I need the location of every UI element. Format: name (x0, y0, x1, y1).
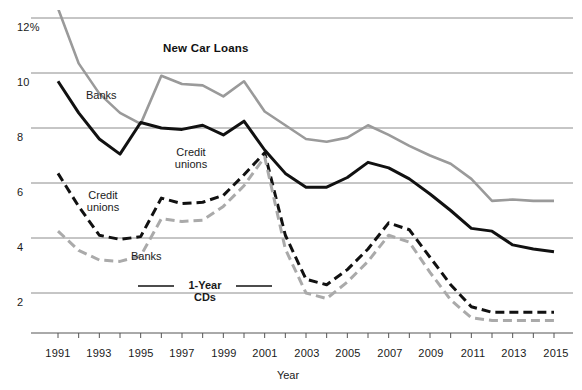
series-group (58, 8, 554, 320)
x-axis-tick-2011: 2011 (453, 348, 493, 359)
y-axis-tick-2: 2 (17, 297, 23, 308)
x-axis-tick-2001: 2001 (245, 348, 285, 359)
x-axis-title: Year (248, 369, 328, 381)
y-axis-tick-10: 10 (17, 77, 30, 88)
y-axis-tick-6: 6 (17, 187, 23, 198)
series-line-1 (58, 81, 554, 252)
x-axis-tick-2015: 2015 (536, 348, 576, 359)
series-line-3 (58, 157, 554, 321)
chart-container: 12% 10 8 6 4 2 1991 1993 1995 1997 1999 … (0, 0, 582, 390)
x-axis-tick-2009: 2009 (411, 348, 451, 359)
series-label-banks-loans: Banks (86, 89, 117, 102)
y-axis-tick-12: 12% (17, 22, 40, 33)
series-label-credit-unions-cds-line1: Credit (75, 189, 131, 202)
x-axis-tick-1995: 1995 (121, 348, 161, 359)
x-axis-tick-1991: 1991 (38, 348, 78, 359)
x-axis-tick-2003: 2003 (287, 348, 327, 359)
x-axis-tick-1997: 1997 (162, 348, 202, 359)
x-axis-tick-2007: 2007 (370, 348, 410, 359)
series-label-credit-unions-cds-line2: unions (75, 201, 131, 214)
y-axis-tick-8: 8 (17, 132, 23, 143)
y-axis-tick-4: 4 (17, 242, 23, 253)
x-axis-tick-1999: 1999 (204, 348, 244, 359)
series-label-credit-unions-loans-line2: unions (163, 158, 219, 171)
chart-title: New Car Loans (163, 42, 249, 54)
group-label-cds-line1: 1-Year (176, 279, 234, 292)
group-label-cds-line2: CDs (176, 291, 234, 304)
x-axis-tick-2005: 2005 (328, 348, 368, 359)
series-label-credit-unions-loans-line1: Credit (163, 146, 219, 159)
series-label-banks-cds: Banks (131, 250, 162, 263)
series-line-0 (58, 8, 554, 201)
series-line-2 (58, 153, 554, 313)
x-axis-tick-2013: 2013 (494, 348, 534, 359)
x-axis-tick-1993: 1993 (79, 348, 119, 359)
